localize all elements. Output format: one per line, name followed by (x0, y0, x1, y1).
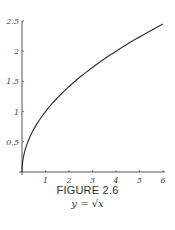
y-tick-label: 1.5 (6, 77, 19, 86)
sqrt-curve (22, 24, 163, 172)
y-tick-label: 2 (13, 47, 19, 56)
tick-labels: 1234560.511.522.5 (5, 17, 165, 185)
y-tick-label: 0.5 (6, 138, 19, 147)
figure-label: FIGURE 2.6 (0, 184, 175, 196)
y-tick-label: 2.5 (5, 17, 19, 26)
y-tick-label: 1 (14, 108, 19, 117)
axes (19, 21, 165, 175)
figure-equation: y = √x (0, 198, 175, 209)
